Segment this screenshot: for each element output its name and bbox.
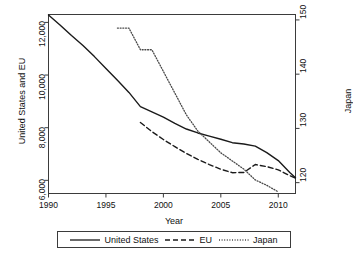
x-axis-ticks: [49, 194, 279, 198]
y-axis-left-title: United States and EU: [17, 31, 27, 171]
legend-item: United States: [70, 235, 158, 245]
series-line-japan: [117, 28, 278, 192]
y-tick-label-left: 10,000: [37, 74, 47, 114]
x-tick-label: 1990: [29, 200, 69, 210]
x-tick-label: 2005: [201, 200, 241, 210]
plot-frame: [49, 15, 296, 194]
legend-line-dashed: [165, 236, 195, 244]
y-tick-label-right: 150: [298, 0, 308, 19]
legend-label-japan: Japan: [253, 235, 278, 245]
y-tick-label-left: 12,000: [37, 21, 47, 61]
x-tick-label: 2010: [258, 200, 298, 210]
series-lines: [49, 15, 296, 192]
legend-line-dotted: [219, 236, 249, 244]
legend-label-eu: EU: [199, 235, 212, 245]
legend-label-united-states: United States: [104, 235, 158, 245]
series-line-united-states: [49, 15, 296, 178]
x-tick-label: 1995: [86, 200, 126, 210]
y-tick-label-right: 120: [298, 152, 308, 182]
x-axis-title: Year: [0, 216, 348, 226]
x-tick-label: 2000: [143, 200, 183, 210]
legend-item: EU: [165, 235, 212, 245]
y-tick-label-left: 8,000: [37, 127, 47, 167]
y-axis-right-title: Japan: [343, 41, 353, 161]
y-tick-label-right: 140: [298, 43, 308, 73]
legend-item: Japan: [219, 235, 278, 245]
y-tick-label-right: 130: [298, 97, 308, 127]
legend-line-solid: [70, 236, 100, 244]
chart-legend: United States EU Japan: [57, 231, 291, 248]
